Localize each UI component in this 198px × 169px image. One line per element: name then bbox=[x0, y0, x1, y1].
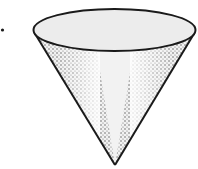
cone-diagram bbox=[0, 0, 198, 169]
cone-figure bbox=[0, 0, 198, 169]
marker-dot bbox=[1, 28, 4, 31]
cone-opening bbox=[34, 9, 196, 51]
